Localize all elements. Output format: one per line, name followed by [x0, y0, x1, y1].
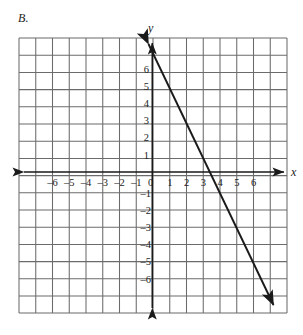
origin-label: 0	[148, 177, 153, 188]
x-axis-letter: x	[290, 165, 297, 179]
x-tick-label: 4	[217, 177, 223, 188]
x-tick-label: 2	[184, 177, 189, 188]
y-tick-label: –1	[140, 188, 152, 199]
x-tick-label: –6	[46, 177, 58, 188]
y-tick-label: 2	[144, 132, 149, 143]
x-tick-label: –1	[130, 177, 142, 188]
y-tick-label: 4	[144, 98, 150, 109]
y-tick-label: 1	[144, 150, 149, 161]
x-tick-label: –3	[97, 177, 109, 188]
coordinate-plane-figure: x y –6 –5 –4 –3 –2 –1 0 1 2 3 4 5 6 6 5 …	[0, 0, 303, 335]
y-tick-label: 5	[144, 81, 149, 92]
x-tick-label: –5	[63, 177, 75, 188]
x-tick-label: –4	[80, 177, 92, 188]
coordinate-graph: x y –6 –5 –4 –3 –2 –1 0 1 2 3 4 5 6 6 5 …	[0, 0, 303, 335]
y-tick-label: 6	[144, 64, 149, 75]
x-tick-label: –2	[113, 177, 125, 188]
y-tick-label: 3	[144, 115, 149, 126]
x-tick-label: 5	[234, 177, 239, 188]
y-tick-label: –2	[140, 205, 152, 216]
y-tick-label: –5	[140, 256, 152, 267]
y-axis-letter: y	[147, 21, 154, 35]
y-tick-label: –3	[140, 222, 152, 233]
x-tick-label: 6	[251, 177, 256, 188]
y-tick-label: –4	[140, 239, 152, 250]
x-tick-label: 3	[201, 177, 206, 188]
y-tick-label: –6	[140, 274, 152, 285]
x-tick-label: 1	[167, 177, 172, 188]
